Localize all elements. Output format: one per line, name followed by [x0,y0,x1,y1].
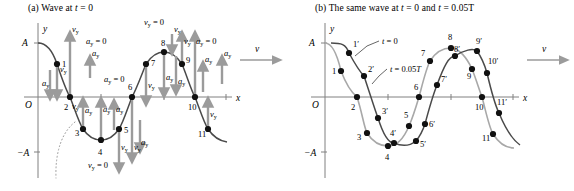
point-label-2: 2 [351,102,355,112]
point-label-9: 9 [467,71,471,81]
point-label-7: 7 [421,48,425,58]
data-point [116,126,122,132]
point-label-1: 1 [332,66,336,76]
point-label-7: 7 [151,58,155,68]
panel-b-curve-leaders [355,41,387,84]
point-label-3: 3 [357,132,361,142]
data-point [67,94,73,100]
data-point [391,140,397,146]
data-point [422,121,428,127]
point-label-11p: 11′ [497,97,507,107]
point-label-6p: 6′ [429,119,435,129]
point-label-10: 10 [188,102,197,112]
data-point [346,50,352,56]
vy-zero-annotation-p8: vy = 0 [144,17,164,28]
panel-b-amplitude-neg-label: −A [304,148,316,158]
wave-motion-figure: (a) Wave at t = 0 [0,0,574,191]
data-point [406,123,412,129]
point-label-1p: 1′ [353,39,359,49]
ay-label-p10: ay [205,54,212,65]
point-label-5: 5 [404,110,408,120]
point-label-6: 6 [414,82,418,92]
data-point [179,61,185,67]
data-point [416,94,422,100]
vy-label-p2: vy [72,24,79,35]
vy-zero-annotation-p4: vy = 0 [88,160,108,171]
ay-label-p5: ay [116,104,123,115]
point-label-7p: 7′ [441,74,447,84]
ay-label-p4: ay [103,104,110,115]
panel-b-plot: y x O A −A t = 0 t = 0.05T v [287,0,574,191]
point-label-4: 4 [385,152,390,162]
ay-label-p3b: ay [92,48,99,59]
panel-a-wave-at-t0: (a) Wave at t = 0 [0,0,287,191]
data-point [434,82,440,88]
vy-label-p8-right: vy [174,24,181,35]
data-point [80,126,86,132]
data-point [375,115,381,121]
data-point [474,48,480,54]
data-point [192,94,198,100]
panel-a-dotted-guide-arc [56,122,75,178]
data-point [364,130,370,136]
data-point [129,94,135,100]
panel-a-amplitude-neg-label: −A [17,148,29,158]
ay-zero-annotation-p2: ay = 0 [86,36,107,47]
vy-label-p5: vy [121,142,128,153]
data-point [354,94,360,100]
point-label-2p: 2′ [368,64,374,74]
panel-a-amplitude-pos-label: A [21,38,28,48]
point-label-8: 8 [448,32,452,42]
data-point [361,73,367,79]
data-point [490,131,496,137]
point-label-8: 8 [161,38,165,48]
vy-label-p9: vy [184,36,191,47]
ay-label-p3: ay [85,105,92,116]
point-label-11: 11 [482,133,490,143]
point-label-4p: 4′ [390,128,396,138]
point-label-5p: 5′ [420,139,426,149]
data-point [484,70,490,76]
point-label-11: 11 [198,129,206,139]
point-label-5: 5 [124,125,128,135]
panel-b-curve-label-t005T: t = 0.05T [390,64,422,74]
vy-label-p7: vy [148,80,155,91]
panel-b-x-axis-label: x [522,93,528,103]
panel-a-plot: y x O A −A [0,0,287,191]
point-label-10p: 10′ [488,56,499,66]
ay-label-p7: ay [141,137,148,148]
point-label-1: 1 [62,59,66,69]
data-point [479,94,485,100]
panel-a-zero-annotations: vy = 0 vy = 0 ay = 0 ay = 0 ay = 0 [86,17,217,171]
panel-b-same-wave-two-times: (b) The same wave at t = 0 and t = 0.05T [287,0,574,191]
data-point [413,138,419,144]
panel-a-y-axis-label: y [42,24,48,34]
vy-label-p11: vy [210,109,217,120]
ay-label-p9: ay [178,76,185,87]
panel-b-origin-label: O [312,100,319,110]
ay-label-p1: ay [42,78,49,89]
point-label-2: 2 [64,102,68,112]
point-label-3p: 3′ [382,106,388,116]
ay-zero-annotation-p10: ay = 0 [196,36,217,47]
panel-a-x-axis-label: x [235,93,241,103]
point-label-10: 10 [475,102,484,112]
point-label-8p: 8′ [454,44,460,54]
panel-b-wave-velocity-label: v [542,44,547,54]
point-label-6: 6 [128,82,132,92]
data-point [161,49,167,55]
panel-a-origin-label: O [25,100,32,110]
ay-label-p8: ay [166,72,173,83]
point-label-9p: 9′ [476,36,482,46]
ay-zero-annotation-p6: ay = 0 [104,74,125,85]
vy-label-p2b: vy [72,101,79,112]
data-point [427,58,433,64]
panel-b-y-axis-label: y [329,24,335,34]
data-point [143,61,149,67]
panel-b-axes [311,23,519,178]
panel-a-wave-velocity-label: v [255,44,260,54]
panel-b-curve-label-t0: t = 0 [382,36,398,46]
data-point [496,110,502,116]
ay-label-far-right: ay [224,48,231,59]
point-label-3: 3 [75,128,79,138]
